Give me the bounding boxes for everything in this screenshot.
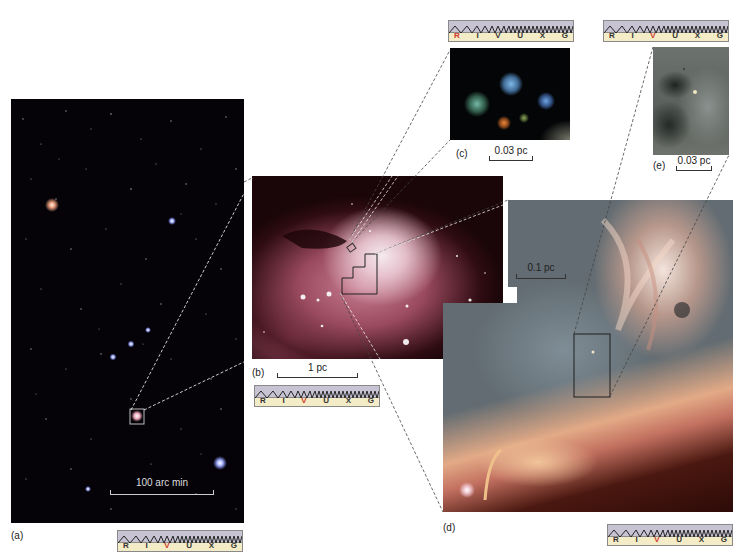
band-u: U xyxy=(672,31,678,41)
scale-label-c: 0.03 pc xyxy=(495,145,528,156)
panel-label-d: (d) xyxy=(443,522,455,533)
band-x: X xyxy=(699,535,704,545)
scale-bar-e: 0.03 pc xyxy=(676,155,712,171)
band-g: G xyxy=(368,396,374,406)
band-x: X xyxy=(695,31,700,41)
band-v: V xyxy=(301,396,306,406)
zoom-box-d xyxy=(574,334,610,397)
band-u: U xyxy=(323,396,329,406)
zoom-box-b-step xyxy=(342,254,377,294)
band-r: R xyxy=(454,31,460,41)
band-g: G xyxy=(717,31,723,41)
panel-label-c: (c) xyxy=(456,148,468,159)
band-x: X xyxy=(540,31,545,41)
scale-label-e: 0.03 pc xyxy=(678,155,711,166)
band-i: I xyxy=(476,31,478,41)
panel-c-protostars xyxy=(450,48,570,140)
panel-label-b: (b) xyxy=(252,367,264,378)
scale-label-b: 1 pc xyxy=(308,362,327,373)
band-r: R xyxy=(613,535,619,545)
band-i: I xyxy=(631,31,633,41)
spectrum-bar-e: R I V U X G xyxy=(603,20,729,42)
band-r: R xyxy=(260,396,266,406)
dark-cloud-image xyxy=(653,47,729,155)
band-u: U xyxy=(186,541,192,551)
band-v: V xyxy=(164,541,169,551)
band-r: R xyxy=(609,31,615,41)
band-g: G xyxy=(562,31,568,41)
scale-label-a: 100 arc min xyxy=(136,477,188,488)
scale-bar-c: 0.03 pc xyxy=(489,145,533,161)
band-g: G xyxy=(231,541,237,551)
band-i: I xyxy=(282,396,284,406)
spectrum-bar-b: R I V U X G xyxy=(254,385,380,407)
band-x: X xyxy=(209,541,214,551)
panel-a-starfield: 100 arc min xyxy=(11,99,244,523)
panel-label-e: (e) xyxy=(653,160,665,171)
spectrum-bar-c: R I V U X G xyxy=(448,20,574,42)
scale-label-d: 0.1 pc xyxy=(527,262,554,273)
band-g: G xyxy=(721,535,727,545)
band-v: V xyxy=(650,31,655,41)
band-v: V xyxy=(654,535,659,545)
panel-e-dark-cloud xyxy=(653,47,729,155)
band-i: I xyxy=(635,535,637,545)
band-u: U xyxy=(676,535,682,545)
starfield-image xyxy=(11,99,244,523)
band-v: V xyxy=(495,31,500,41)
scale-bar-a: 100 arc min xyxy=(110,477,214,495)
band-i: I xyxy=(145,541,147,551)
panel-label-a: (a) xyxy=(11,530,23,541)
spectrum-bar-d: R I V U X G xyxy=(607,524,733,546)
band-u: U xyxy=(517,31,523,41)
band-r: R xyxy=(123,541,129,551)
band-x: X xyxy=(346,396,351,406)
spectrum-bar-a: R I V U X G xyxy=(117,530,243,552)
scale-bar-d: 0.1 pc xyxy=(516,262,566,279)
scale-bar-b: 1 pc xyxy=(277,362,358,378)
zoom-box-b-small xyxy=(347,243,356,252)
